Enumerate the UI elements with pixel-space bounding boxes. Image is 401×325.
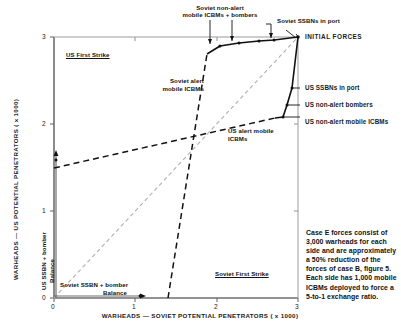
y-tick-2: 2 [42,120,46,127]
figure-caption: Case E forces consist of 3,000 warheads … [306,228,400,301]
y-axis-title: WARHEADS — US POTENTIAL PENETRATORS ( x … [12,99,19,280]
callout-soviet-nonalert-line2: mobile ICBMs + bombers [160,11,280,19]
label-soviet-alert-mobile-icbms-line2: mobile ICBMs [142,85,204,93]
callout-us-nonalert-mobile-icbms: US non-alert mobile ICBMs [305,118,401,125]
y-tick-3: 3 [42,33,46,40]
callout-us-nonalert-bombers: US non-alert bombers [305,101,373,108]
label-us-alert-mobile-icbms-line2: ICBMs [228,135,247,143]
curve-data-markers [219,35,300,118]
y-tick-1: 1 [42,207,46,214]
x-tick-2: 2 [214,303,218,310]
label-us-ssbn-bomber-balance-line1: US SSBN + bomber [40,232,48,290]
region-label-us-first-strike: US First Strike [66,51,110,59]
x-tick-0: 0 [51,303,55,310]
callout-us-ssbns-in-port: US SSBNs in port [305,84,359,91]
x-tick-1: 1 [132,303,136,310]
label-us-alert-mobile-icbms-line1: US alert mobile [228,127,274,135]
region-label-soviet-first-strike: Soviet First Strike [215,270,269,278]
label-soviet-alert-mobile-icbms-line1: Soviet alert [142,77,204,85]
callout-initial-forces: INITIAL FORCES [305,33,362,40]
label-us-ssbn-bomber-balance-line2: Balance [48,259,56,283]
y-tick-0: 0 [42,294,46,301]
x-axis-title: WARHEADS — SOVIET POTENTIAL PENETRATORS … [60,312,340,319]
x-tick-3: 3 [295,303,299,310]
us-alert-mobile-icbm-line [54,118,275,168]
callout-soviet-ssbns-in-port: Soviet SSBNs in port [277,17,340,25]
label-soviet-ssbn-bomber-balance-line2: Balance [60,289,170,297]
exchange-ratio-figure: Soviet non-alert mobile ICBMs + bombers … [0,0,401,325]
label-soviet-ssbn-bomber-balance-line1: Soviet SSBN + bomber [60,281,128,289]
